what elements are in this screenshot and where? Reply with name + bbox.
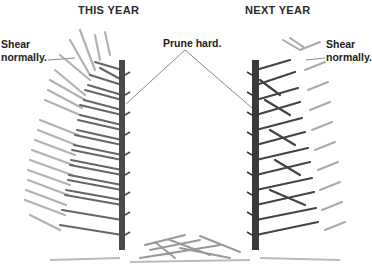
clippings-pile — [140, 235, 240, 258]
ground — [50, 258, 340, 262]
right-trunk — [252, 60, 259, 250]
left-hedge-inner-branches — [60, 62, 122, 235]
right-hedge-outer-growth — [283, 38, 345, 230]
left-trunk — [119, 60, 125, 250]
hedge-pruning-illustration — [0, 0, 372, 265]
right-hedge-inner-branches — [256, 60, 318, 235]
